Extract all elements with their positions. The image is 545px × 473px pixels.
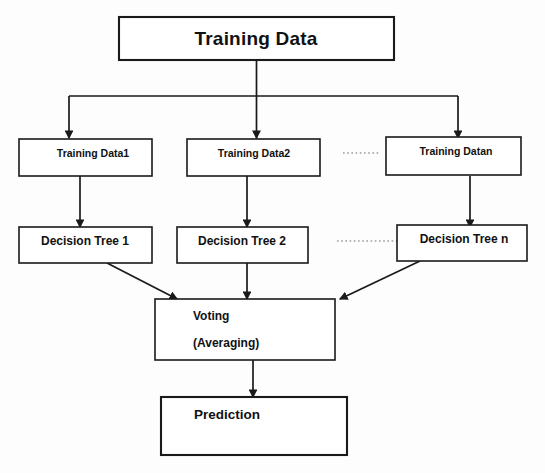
label-training-data-n: Training Datan bbox=[420, 145, 493, 157]
label-training-data: Training Data bbox=[195, 28, 318, 49]
label-decision-tree-2: Decision Tree 2 bbox=[198, 234, 286, 248]
box-voting bbox=[155, 299, 335, 360]
label-decision-tree-1: Decision Tree 1 bbox=[41, 234, 129, 248]
random-forest-diagram: Training Data Training Data1 Training Da… bbox=[0, 0, 545, 473]
diagram-canvas: Training Data Training Data1 Training Da… bbox=[0, 0, 545, 473]
label-training-data-1: Training Data1 bbox=[57, 147, 130, 159]
label-decision-tree-n: Decision Tree n bbox=[420, 232, 509, 246]
label-voting: Voting bbox=[193, 309, 229, 323]
box-prediction bbox=[161, 397, 347, 455]
label-averaging: (Averaging) bbox=[193, 336, 259, 350]
edge-treen-to-voting bbox=[340, 261, 420, 299]
label-training-data-2: Training Data2 bbox=[218, 147, 291, 159]
label-prediction: Prediction bbox=[194, 407, 260, 422]
edge-tree1-to-voting bbox=[107, 263, 177, 299]
